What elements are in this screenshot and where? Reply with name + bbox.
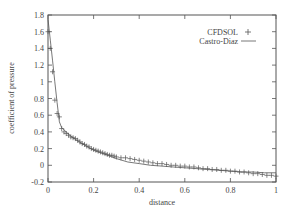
chart: -0.200.20.40.60.811.21.41.61.8 00.20.40.… <box>0 0 291 217</box>
cfdsol-point <box>160 161 165 166</box>
cfdsol-point <box>205 166 210 171</box>
cfdsol-point <box>141 159 146 164</box>
plot-frame <box>48 15 276 182</box>
castro-diaz-curve <box>48 19 276 173</box>
cfdsol-point <box>228 169 233 174</box>
cfdsol-point <box>57 114 62 119</box>
legend: CFDSOL Castro-Diaz <box>199 28 256 46</box>
x-tick-label: 1 <box>274 186 278 195</box>
cfdsol-point <box>242 169 247 174</box>
y-tick-label: 1 <box>40 78 44 87</box>
cfdsol-point <box>109 153 114 158</box>
cfdsol-points <box>46 29 279 178</box>
y-axis: -0.200.20.40.60.811.21.41.61.8 <box>31 11 276 187</box>
x-tick-label: 0.8 <box>225 186 235 195</box>
y-tick-label: 0.4 <box>34 128 44 137</box>
cfdsol-point <box>196 165 201 170</box>
cfdsol-point <box>264 173 269 178</box>
x-tick-label: 0.6 <box>180 186 190 195</box>
y-tick-label: 0 <box>40 161 44 170</box>
legend-marker-plus <box>245 29 251 35</box>
y-tick-label: 0.2 <box>34 145 44 154</box>
cfdsol-point <box>150 160 155 165</box>
legend-label-castro-diaz: Castro-Diaz <box>199 37 238 46</box>
y-tick-label: 1.8 <box>34 11 44 20</box>
x-axis-label: distance <box>149 198 176 207</box>
cfdsol-point <box>219 168 224 173</box>
x-tick-label: 0.2 <box>89 186 99 195</box>
cfdsol-point <box>137 158 142 163</box>
y-tick-label: 1.4 <box>34 44 44 53</box>
x-tick-label: 0 <box>46 186 50 195</box>
cfdsol-point <box>48 46 53 51</box>
cfdsol-point <box>201 166 206 171</box>
cfdsol-point <box>132 157 137 162</box>
cfdsol-point <box>269 173 274 178</box>
cfdsol-point <box>146 159 151 164</box>
cfdsol-point <box>237 169 242 174</box>
cfdsol-point <box>128 156 133 161</box>
cfdsol-point <box>232 169 237 174</box>
y-tick-label: 1.6 <box>34 28 44 37</box>
y-tick-label: 0.6 <box>34 111 44 120</box>
x-axis: 00.20.40.60.81 <box>46 15 278 195</box>
cfdsol-point <box>210 167 215 172</box>
legend-label-cfdsol: CFDSOL <box>207 28 238 37</box>
cfdsol-point <box>214 167 219 172</box>
cfdsol-point <box>112 154 117 159</box>
cfdsol-point <box>274 174 279 179</box>
cfdsol-point <box>223 168 228 173</box>
cfdsol-point <box>187 164 192 169</box>
cfdsol-point <box>123 155 128 160</box>
y-tick-label: -0.2 <box>31 178 44 187</box>
cfdsol-point <box>59 126 64 131</box>
y-axis-label: coefficient of pressure <box>7 62 16 134</box>
cfdsol-point <box>246 170 251 175</box>
y-tick-label: 1.2 <box>34 61 44 70</box>
x-tick-label: 0.4 <box>134 186 144 195</box>
y-tick-label: 0.8 <box>34 95 44 104</box>
cfdsol-point <box>114 154 119 159</box>
castro-diaz-line <box>48 19 276 173</box>
